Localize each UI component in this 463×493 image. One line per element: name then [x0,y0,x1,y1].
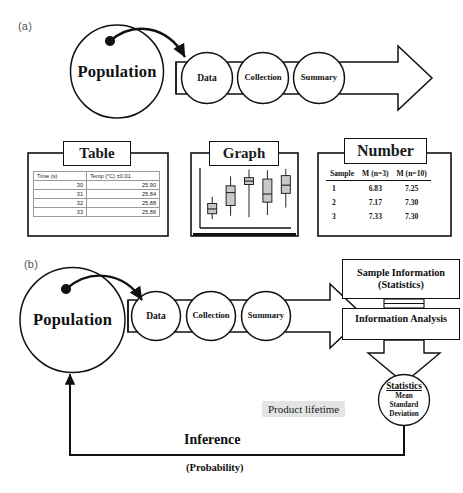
table-row: 3325.86 [34,208,160,217]
table-cell: 25.90 [87,181,160,190]
number-table: Sample M (n=3) M (n=10) 16.837.2527.177.… [326,168,431,224]
table-cell: 25.88 [87,199,160,208]
temperature-table: Time (s) Temp (°C) ±0.01 3025.903125.843… [33,171,160,217]
boxplot-series [200,160,292,228]
table-cell: 7.33 [358,209,392,223]
table-cell: 7.17 [358,195,392,209]
sample-information-text: Sample Information (Statistics) [357,267,445,291]
number-col-sample: Sample [326,168,358,181]
boxplot-svg [200,160,292,228]
table-row: 37.337.30 [326,209,431,223]
data-circle-a [182,53,233,104]
table-header-row: Time (s) Temp (°C) ±0.01 [34,172,160,181]
population-circle-a [71,25,164,118]
product-lifetime-label: Product lifetime [262,401,345,417]
table-cell: 33 [34,208,87,217]
number-header-row: Sample M (n=3) M (n=10) [326,168,431,181]
summary-circle-a [294,53,345,104]
panel-b-label: (b) [24,258,38,270]
number-col-m3: M (n=3) [358,168,392,181]
table-cell: 2 [326,195,358,209]
collection-circle-a [238,53,289,104]
table-cell: 6.83 [358,181,392,196]
boxplot-box [263,170,272,215]
boxplot-box [208,197,217,219]
probability-label: (Probability) [186,462,244,473]
table-cell: 3 [326,209,358,223]
panel-a-label: (a) [18,20,32,32]
table-row: 3225.88 [34,199,160,208]
information-analysis-box: Information Analysis [342,308,460,340]
diagram-vector-layer [0,0,463,493]
summary-circle-b [242,292,291,341]
table-cell: 30 [34,181,87,190]
table-col-time: Time (s) [34,172,87,181]
inference-label: Inference [178,432,247,448]
boxes-connector-stripes [384,299,424,308]
table-cell: 31 [34,190,87,199]
table-row: 3125.84 [34,190,160,199]
table-cell: 7.30 [393,209,431,223]
table-card-title: Table [63,141,131,166]
boxplot-box [245,170,254,218]
number-card-title: Number [344,138,427,164]
sample-information-box: Sample Information (Statistics) [342,259,460,299]
table-cell: 1 [326,181,358,196]
number-col-m10: M (n=10) [393,168,431,181]
table-row: 16.837.25 [326,181,431,196]
table-cell: 7.30 [393,195,431,209]
statistics-circle [379,375,430,426]
table-col-temp: Temp (°C) ±0.01 [87,172,160,181]
figure-canvas: (a) (b) Population Data Collection Summa… [0,0,463,493]
boxplot-box [281,169,290,208]
table-row: 3025.90 [34,181,160,190]
boxplot-box [226,176,235,215]
table-row: 27.177.30 [326,195,431,209]
collection-circle-b [187,292,236,341]
table-cell: 25.84 [87,190,160,199]
table-cell: 7.25 [393,181,431,196]
table-cell: 32 [34,199,87,208]
data-circle-b [132,292,181,341]
graph-card-title: Graph [209,141,279,166]
table-cell: 25.86 [87,208,160,217]
